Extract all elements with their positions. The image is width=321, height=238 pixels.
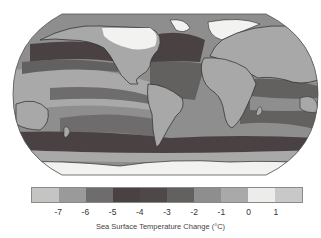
legend-swatch <box>32 188 59 202</box>
color-legend <box>31 187 303 203</box>
legend-tick: -7 <box>54 207 62 217</box>
legend-swatch <box>167 188 194 202</box>
legend-title: Sea Surface Temperature Change (°C) <box>0 222 321 231</box>
legend-tick-labels: -7 -6 -5 -4 -3 -2 -1 0 1 <box>31 207 303 219</box>
legend-swatch <box>275 188 302 202</box>
legend-tick: 0 <box>246 207 251 217</box>
antarctica <box>13 161 318 180</box>
legend-swatch <box>113 188 140 202</box>
legend-tick: -3 <box>163 207 171 217</box>
legend-swatch <box>194 188 221 202</box>
legend-tick: -1 <box>218 207 226 217</box>
legend-swatch <box>140 188 167 202</box>
legend-tick: 1 <box>273 207 278 217</box>
legend-swatch <box>221 188 248 202</box>
australia <box>16 101 48 130</box>
legend-swatch <box>86 188 113 202</box>
legend-tick: -6 <box>82 207 90 217</box>
legend-tick: -2 <box>190 207 198 217</box>
legend-swatch <box>248 188 275 202</box>
legend-swatch <box>59 188 86 202</box>
legend-tick: -4 <box>136 207 144 217</box>
legend-tick: -5 <box>109 207 117 217</box>
world-map <box>0 0 321 180</box>
